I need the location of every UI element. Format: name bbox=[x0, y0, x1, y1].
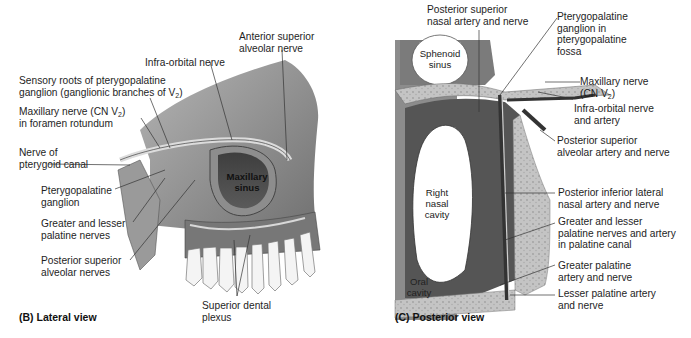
label-infra-orbital-nerve-artery: Infra-orbital nerveand artery bbox=[574, 103, 654, 126]
label-maxillary-nerve: Maxillary nerve (CN V2)in foramen rotund… bbox=[19, 106, 125, 129]
label-superior-dental-plexus: Superior dentalplexus bbox=[202, 300, 271, 323]
label-sensory-roots: Sensory roots of pterygopalatineganglion… bbox=[19, 75, 183, 98]
label-sphenoid-sinus: Sphenoidsinus bbox=[415, 48, 465, 70]
label-posterior-superior-nasal: Posterior superiornasal artery and nerve bbox=[427, 4, 528, 27]
label-infra-orbital-nerve: Infra-orbital nerve bbox=[145, 57, 225, 69]
label-greater-palatine: Greater palatineartery and nerve bbox=[558, 260, 632, 283]
lateral-view-title: (B) Lateral view bbox=[19, 311, 97, 323]
label-posterior-inferior-lateral-nasal: Posterior inferior lateralnasal artery a… bbox=[558, 187, 663, 210]
label-maxillary-nerve-cn-v2: Maxillary nerve(CN V2) bbox=[580, 76, 649, 99]
label-greater-lesser-palatine-nerves: Greater and lesserpalatine nerves bbox=[41, 218, 125, 241]
label-posterior-superior-alveolar: Posterior superioralveolar artery and ne… bbox=[557, 135, 670, 158]
label-oral-cavity: Oralcavity bbox=[399, 276, 439, 298]
label-anterior-superior-alveolar-nerve: Anterior superioralveolar nerve bbox=[239, 31, 314, 54]
label-pterygopalatine-ganglion: Pterygopalatineganglion bbox=[41, 185, 112, 208]
label-lesser-palatine: Lesser palatine arteryand nerve bbox=[558, 288, 656, 311]
posterior-view-panel: Posterior superiornasal artery and nerve… bbox=[345, 0, 691, 338]
label-posterior-superior-alveolar-nerves: Posterior superioralveolar nerves bbox=[41, 255, 121, 278]
label-pterygopalatine-fossa: Pterygopalatineganglion inpterygopalatin… bbox=[557, 11, 628, 57]
label-right-nasal-cavity: Rightnasalcavity bbox=[417, 187, 457, 220]
label-maxillary-sinus: Maxillary sinus bbox=[222, 171, 272, 193]
posterior-view-title: (C) Posterior view bbox=[395, 311, 484, 323]
label-greater-lesser-palatine-canal: Greater and lesserpalatine nerves and ar… bbox=[558, 216, 676, 251]
label-nerve-of-pterygoid-canal: Nerve ofpterygoid canal bbox=[19, 147, 88, 170]
lateral-view-panel: Anterior superioralveolar nerve Infra-or… bbox=[0, 0, 345, 338]
